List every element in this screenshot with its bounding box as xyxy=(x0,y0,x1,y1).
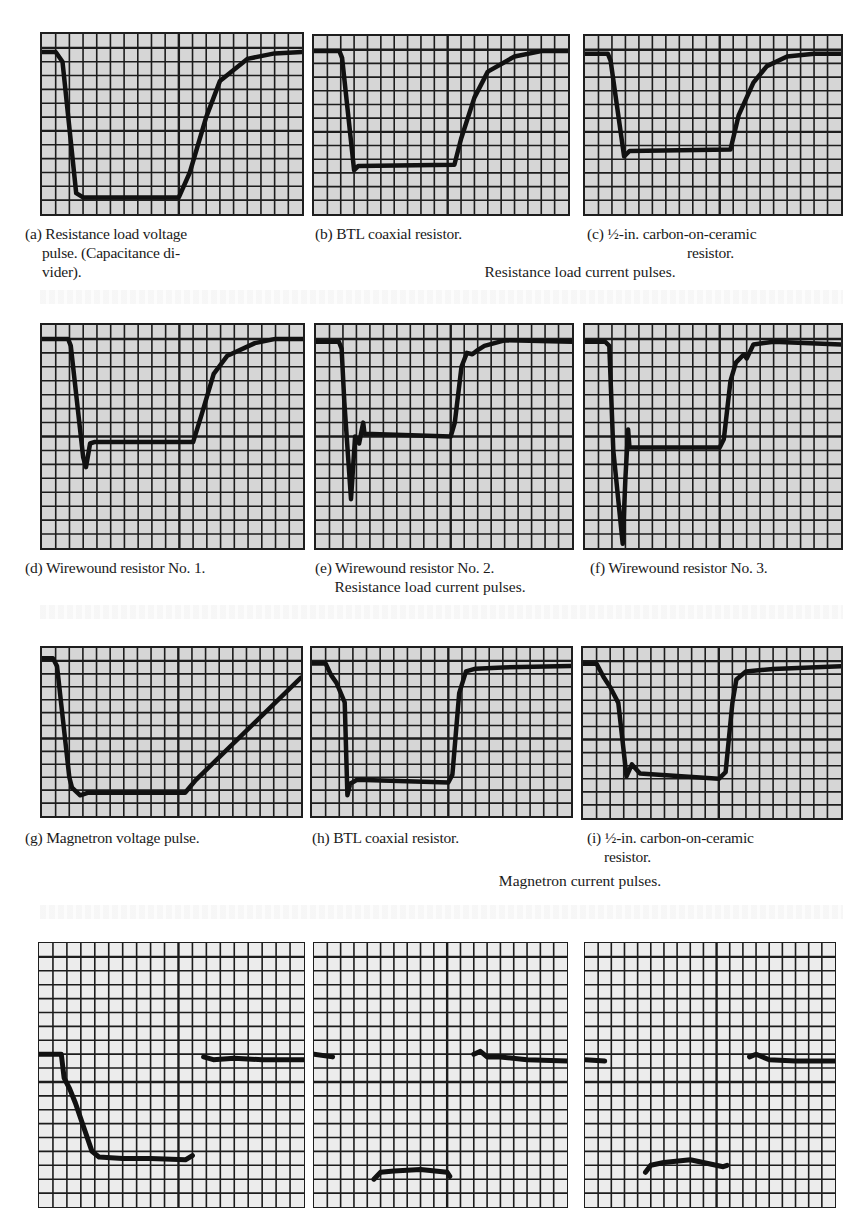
oscillogram-svg xyxy=(316,325,572,548)
pulse-trace xyxy=(42,339,303,467)
caption-text: resistor. xyxy=(587,243,857,262)
caption-text: BTL coaxial resistor. xyxy=(336,225,462,242)
group-caption-resistance-load: Resistance load current pulses. xyxy=(420,262,740,281)
caption-g: (g) Magnetron voltage pulse. xyxy=(25,828,305,847)
pulse-trace xyxy=(585,342,841,544)
pulse-trace xyxy=(39,1054,304,1160)
oscillogram-d xyxy=(40,323,305,550)
caption-text: vider). xyxy=(25,262,305,281)
oscillogram-svg xyxy=(39,943,304,1207)
caption-letter: (c) xyxy=(587,225,604,242)
caption-text: BTL coaxial resistor. xyxy=(333,829,459,846)
oscillogram-svg xyxy=(42,34,302,214)
pulse-trace xyxy=(314,1051,567,1179)
caption-letter: (d) xyxy=(25,559,42,576)
group-caption-magnetron: Magnetron current pulses. xyxy=(440,871,720,890)
caption-text: ½-in. carbon-on-ceramic xyxy=(605,829,754,846)
pulse-trace xyxy=(312,664,571,796)
oscillogram-svg xyxy=(314,943,567,1207)
caption-i: (i) ½-in. carbon-on-ceramic resistor. xyxy=(587,828,857,866)
faint-bleedthrough-text xyxy=(40,290,843,304)
caption-a: (a) Resistance load voltage pulse. (Capa… xyxy=(25,224,305,281)
faint-bleedthrough-text xyxy=(40,605,843,619)
caption-e: (e) Wirewound resistor No. 2. xyxy=(315,558,585,577)
caption-c: (c) ½-in. carbon-on-ceramic resistor. xyxy=(587,224,857,262)
oscillogram-svg xyxy=(42,325,303,548)
oscillogram-svg xyxy=(585,36,841,214)
caption-letter: (f) xyxy=(590,559,605,576)
caption-text: Wirewound resistor No. 2. xyxy=(335,559,494,576)
caption-text: Magnetron voltage pulse. xyxy=(46,829,199,846)
oscillogram-i xyxy=(581,646,843,820)
oscillogram-svg xyxy=(585,325,841,548)
oscillogram-a xyxy=(40,32,304,216)
oscillogram-j xyxy=(38,942,305,1208)
faint-bleedthrough-text xyxy=(40,905,843,919)
caption-letter: (i) xyxy=(587,829,601,846)
oscillogram-svg xyxy=(42,648,301,816)
caption-text: pulse. (Capacitance di- xyxy=(25,243,305,262)
pulse-trace xyxy=(585,1054,835,1172)
caption-text: ½-in. carbon-on-ceramic xyxy=(607,225,756,242)
oscillogram-svg xyxy=(314,36,568,214)
caption-letter: (g) xyxy=(25,829,42,846)
pulse-trace xyxy=(42,658,301,795)
oscillogram-e xyxy=(314,323,574,550)
pulse-trace xyxy=(42,52,302,197)
oscillogram-svg xyxy=(585,943,835,1207)
oscillogram-k xyxy=(313,942,568,1208)
caption-text: resistor. xyxy=(587,847,857,866)
caption-letter: (b) xyxy=(315,225,332,242)
oscillogram-h xyxy=(310,646,573,818)
pulse-trace xyxy=(583,664,841,779)
oscillogram-svg xyxy=(312,648,571,816)
caption-text: Resistance load voltage xyxy=(45,225,187,242)
caption-text: Wirewound resistor No. 1. xyxy=(46,559,205,576)
group-caption-resistance-load-2: Resistance load current pulses. xyxy=(270,577,590,596)
caption-letter: (h) xyxy=(312,829,329,846)
pulse-trace xyxy=(316,340,572,499)
oscillogram-svg xyxy=(583,648,841,818)
caption-letter: (a) xyxy=(25,225,42,242)
caption-d: (d) Wirewound resistor No. 1. xyxy=(25,558,310,577)
caption-b: (b) BTL coaxial resistor. xyxy=(315,224,575,243)
caption-h: (h) BTL coaxial resistor. xyxy=(312,828,572,847)
oscillogram-g xyxy=(40,646,303,818)
caption-f: (f) Wirewound resistor No. 3. xyxy=(590,558,863,577)
oscillogram-f xyxy=(583,323,843,550)
caption-letter: (e) xyxy=(315,559,332,576)
caption-text: Wirewound resistor No. 3. xyxy=(608,559,767,576)
oscillogram-l xyxy=(584,942,836,1208)
oscillogram-b xyxy=(312,34,570,216)
pulse-trace xyxy=(314,51,568,170)
oscillogram-c xyxy=(583,34,843,216)
